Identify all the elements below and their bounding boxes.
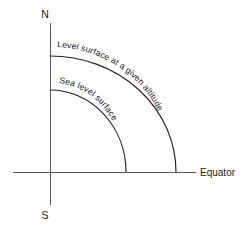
sea-level-surface-arc xyxy=(50,90,126,172)
level-surface-label: Level surface at a given altitude xyxy=(57,39,166,113)
south-pole-label: S xyxy=(41,209,48,221)
equator-label: Equator xyxy=(200,167,236,178)
level-surface-label-textpath: Level surface at a given altitude xyxy=(57,39,166,113)
north-pole-label: N xyxy=(41,8,49,20)
sea-level-surface-label: Sea level surface xyxy=(59,75,120,122)
sea-level-surface-label-textpath: Sea level surface xyxy=(59,75,120,122)
diagram-canvas: Level surface at a given altitude Sea le… xyxy=(0,0,250,231)
geoid-diagram: Level surface at a given altitude Sea le… xyxy=(0,0,250,231)
